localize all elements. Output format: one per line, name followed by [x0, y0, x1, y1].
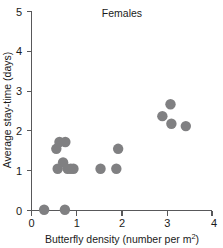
x-tick-label-1: 1 — [74, 217, 80, 229]
data-point — [157, 111, 167, 121]
y-tick-label-5: 5 — [16, 6, 22, 18]
data-point — [60, 137, 70, 147]
scatter-plot-figure: 0 1 2 3 4 5 0 1 2 3 4 Females Average st… — [0, 0, 223, 248]
y-tick-label-3: 3 — [16, 85, 22, 97]
y-tick-label-2: 2 — [16, 125, 22, 137]
data-point — [95, 164, 105, 174]
data-point — [166, 119, 176, 129]
data-point — [39, 205, 49, 215]
data-point — [60, 205, 70, 215]
y-tick-label-1: 1 — [16, 165, 22, 177]
x-axis-title: Butterfly density (number per m2) — [45, 232, 199, 245]
x-tick-label-0: 0 — [28, 217, 34, 229]
y-tick-label-0: 0 — [16, 205, 22, 217]
data-point — [165, 99, 175, 109]
x-tick-label-4: 4 — [211, 217, 217, 229]
data-point — [111, 164, 121, 174]
data-point — [181, 121, 191, 131]
x-axis-title-tail: ) — [196, 233, 200, 245]
data-point — [113, 144, 123, 154]
x-tick-label-2: 2 — [119, 217, 125, 229]
x-axis-title-main: Butterfly density (number per m — [45, 233, 192, 245]
plot-title: Females — [102, 7, 142, 19]
x-tick-label-3: 3 — [164, 217, 170, 229]
data-point — [68, 164, 78, 174]
y-tick-label-4: 4 — [16, 45, 22, 57]
chart-canvas: 0 1 2 3 4 5 0 1 2 3 4 Females Average st… — [0, 0, 223, 248]
y-axis-title: Average stay-time (days) — [1, 52, 13, 169]
